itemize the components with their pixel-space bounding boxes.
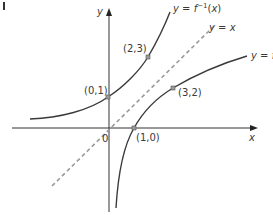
- point-2-3-label: (2,3): [123, 43, 147, 54]
- point-0-1-label: (0,1): [84, 85, 108, 96]
- y-axis: [106, 8, 112, 212]
- point-1-0-marker: [132, 126, 136, 130]
- point-1-0-label: (1,0): [136, 132, 160, 143]
- corner-mark: [3, 2, 5, 10]
- identity-line-label: y = x: [208, 22, 236, 33]
- point-3-2-label: (3,2): [178, 87, 202, 98]
- point-2-3-marker: [146, 55, 150, 59]
- y-axis-label: y: [96, 6, 104, 17]
- x-axis-label: x: [248, 132, 255, 143]
- inverse-function-diagram: y x 0 (0,1) (2,3) (3,2) (1,0) y = f−1(x)…: [0, 0, 273, 215]
- origin-label: 0: [102, 133, 108, 144]
- point-3-2-marker: [171, 86, 175, 90]
- inverse-function-label: y = f−1(x): [172, 2, 221, 14]
- function-label: y = f: [250, 50, 273, 61]
- inverse-function-curve: [30, 12, 170, 119]
